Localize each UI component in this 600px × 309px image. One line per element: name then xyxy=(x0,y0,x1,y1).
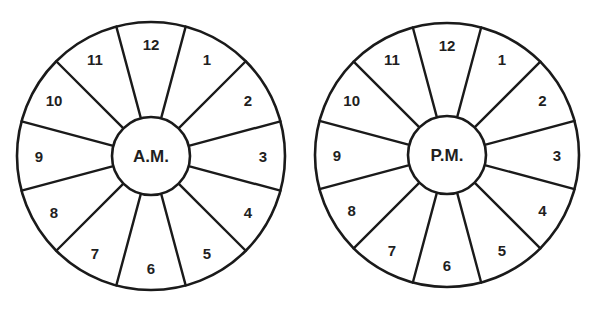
hour-label-1: 1 xyxy=(498,51,506,68)
am-clock: 121234567891011 A.M. xyxy=(17,22,285,290)
hour-label-5: 5 xyxy=(498,242,506,259)
hour-label-9: 9 xyxy=(35,148,43,165)
hour-label-12: 12 xyxy=(439,37,456,54)
hour-label-8: 8 xyxy=(50,204,58,221)
am-center-label: A.M. xyxy=(133,147,169,166)
hour-label-2: 2 xyxy=(538,92,546,109)
hour-label-3: 3 xyxy=(259,148,267,165)
hour-label-4: 4 xyxy=(538,202,547,219)
hour-label-9: 9 xyxy=(333,147,341,164)
hour-label-1: 1 xyxy=(203,51,211,68)
hour-label-2: 2 xyxy=(244,92,252,109)
hour-label-5: 5 xyxy=(203,245,211,262)
hour-label-6: 6 xyxy=(147,260,155,277)
hour-label-8: 8 xyxy=(348,202,356,219)
pm-clock: 121234567891011 P.M. xyxy=(315,23,579,287)
hour-label-3: 3 xyxy=(553,147,561,164)
hour-label-7: 7 xyxy=(91,245,99,262)
hour-label-12: 12 xyxy=(143,36,160,53)
hour-label-10: 10 xyxy=(46,92,63,109)
clock-diagram: 121234567891011 A.M. 121234567891011 P.M… xyxy=(0,0,600,309)
pm-center-label: P.M. xyxy=(431,146,464,165)
hour-label-6: 6 xyxy=(443,257,451,274)
hour-label-4: 4 xyxy=(244,204,253,221)
hour-label-7: 7 xyxy=(388,242,396,259)
hour-label-11: 11 xyxy=(87,51,103,68)
hour-label-10: 10 xyxy=(343,92,360,109)
hour-label-11: 11 xyxy=(384,51,400,68)
